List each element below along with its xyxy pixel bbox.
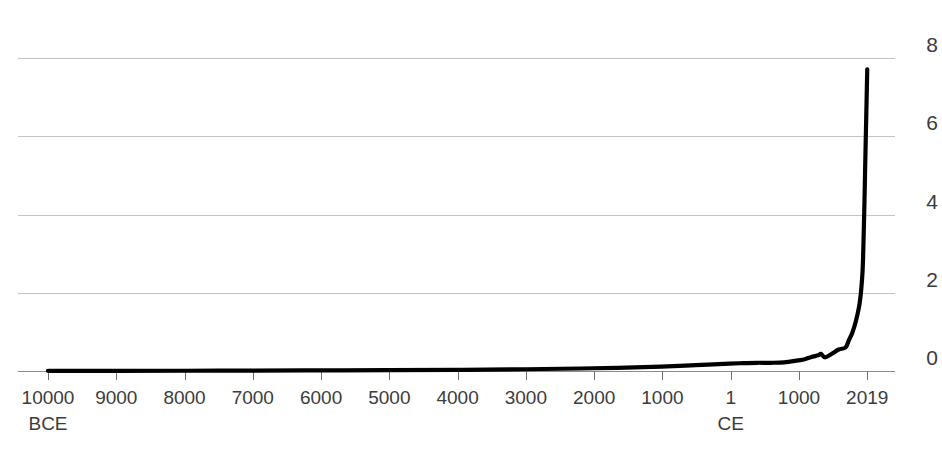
y-tick-label-8: 8	[898, 34, 938, 55]
x-tick-mark-12	[867, 371, 868, 380]
gridline-4	[18, 215, 895, 216]
plot-area: 02468 1000090008000700060005000400030002…	[0, 0, 942, 456]
era-label-bce: BCE	[0, 414, 108, 434]
x-tick-mark-4	[321, 371, 322, 380]
gridline-2	[18, 293, 895, 294]
x-tick-mark-1	[116, 371, 117, 380]
gridline-8	[18, 58, 895, 59]
x-tick-mark-0	[48, 371, 49, 380]
x-axis-baseline	[18, 371, 895, 372]
x-tick-mark-2	[185, 371, 186, 380]
x-tick-mark-5	[389, 371, 390, 380]
y-tick-label-4: 4	[898, 191, 938, 212]
x-tick-mark-7	[526, 371, 527, 380]
y-tick-label-6: 6	[898, 112, 938, 133]
x-tick-mark-9	[662, 371, 663, 380]
gridline-6	[18, 136, 895, 137]
population-curve	[48, 69, 867, 370]
x-tick-mark-10	[731, 371, 732, 380]
y-tick-label-2: 2	[898, 269, 938, 290]
x-tick-mark-3	[253, 371, 254, 380]
x-tick-mark-6	[458, 371, 459, 380]
x-tick-label-12: 2019	[807, 388, 927, 408]
population-chart: 02468 1000090008000700060005000400030002…	[0, 0, 942, 456]
y-tick-label-0: 0	[898, 347, 938, 368]
x-tick-mark-8	[594, 371, 595, 380]
x-tick-mark-11	[799, 371, 800, 380]
era-label-ce: CE	[671, 414, 791, 434]
